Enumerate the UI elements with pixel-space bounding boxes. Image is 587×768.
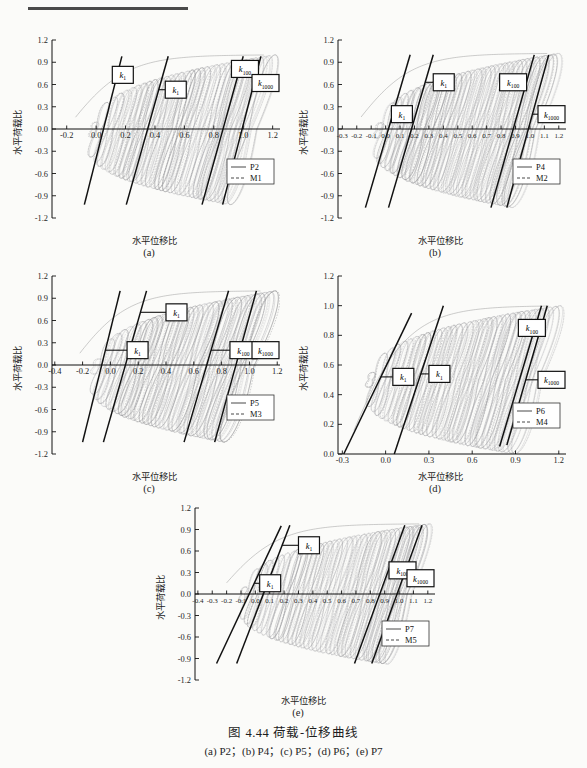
legend-label-P7: P7 bbox=[405, 625, 414, 634]
y-tick-label: 0.3 bbox=[181, 569, 191, 578]
chart-panel-a: -0.20.00.20.40.60.81.01.2-1.2-0.9-0.6-0.… bbox=[10, 30, 288, 258]
y-tick-label: -0.9 bbox=[321, 192, 334, 201]
x-tick-label: 0.8 bbox=[216, 367, 226, 376]
x-tick-label: 0.6 bbox=[467, 456, 477, 465]
x-tick-label: -0.4 bbox=[192, 597, 204, 605]
x-tick-label: 0.8 bbox=[209, 131, 219, 140]
legend-label-M5: M5 bbox=[405, 636, 417, 645]
y-tick-label: 0.9 bbox=[38, 294, 48, 303]
x-tick-label: -0.2 bbox=[60, 131, 73, 140]
x-tick-label: 1.2 bbox=[554, 456, 564, 465]
y-tick-label: 0.3 bbox=[38, 103, 48, 112]
y-tick-label: 0.6 bbox=[181, 547, 191, 556]
legend-label-P2: P2 bbox=[250, 163, 259, 172]
panel-subcaption: (b) bbox=[429, 247, 442, 258]
x-tick-label: -0.3 bbox=[207, 597, 219, 605]
y-tick-label: -0.3 bbox=[35, 147, 48, 156]
y-tick-label: 0.0 bbox=[38, 125, 48, 134]
x-tick-label: -0.1 bbox=[235, 597, 247, 605]
x-tick-label: 0.2 bbox=[280, 597, 289, 605]
y-tick-label: 1.2 bbox=[38, 272, 48, 281]
x-tick-label: 1.0 bbox=[244, 367, 254, 376]
panel-subcaption: (e) bbox=[292, 707, 304, 718]
x-axis-title: 水平位移比 bbox=[418, 235, 463, 246]
y-tick-label: 0.6 bbox=[324, 361, 334, 370]
x-tick-label: 0.0 bbox=[105, 367, 115, 376]
x-tick-label: 0.9 bbox=[511, 132, 520, 140]
x-tick-label: 1.0 bbox=[238, 131, 248, 140]
panel-subcaption: (d) bbox=[429, 483, 442, 494]
panel-subcaption: (c) bbox=[143, 483, 155, 494]
x-tick-label: 0.1 bbox=[265, 597, 274, 605]
y-tick-label: -0.3 bbox=[35, 383, 48, 392]
x-tick-label: -0.2 bbox=[221, 597, 233, 605]
x-tick-label: 0.3 bbox=[425, 132, 434, 140]
legend-c: P5M3 bbox=[227, 395, 274, 420]
x-tick-label: 1.2 bbox=[267, 131, 277, 140]
y-tick-label: -0.9 bbox=[35, 428, 48, 437]
x-tick-label: 0.0 bbox=[251, 597, 260, 605]
y-tick-label: -0.9 bbox=[178, 655, 191, 664]
x-tick-label: 0.6 bbox=[179, 131, 189, 140]
x-tick-label: 0.2 bbox=[133, 367, 143, 376]
y-tick-label: -0.9 bbox=[35, 192, 48, 201]
x-tick-label: 0.6 bbox=[337, 597, 346, 605]
y-tick-label: -0.6 bbox=[35, 170, 48, 179]
x-tick-label: 0.5 bbox=[323, 597, 332, 605]
y-axis-title: 水平荷载比 bbox=[298, 110, 309, 155]
y-tick-label: -1.2 bbox=[321, 214, 334, 223]
legend-label-M4: M4 bbox=[536, 418, 548, 427]
x-tick-label: 0.2 bbox=[410, 132, 419, 140]
x-tick-label: -0.1 bbox=[366, 132, 378, 140]
chart-svg-a: -0.20.00.20.40.60.81.01.2-1.2-0.9-0.6-0.… bbox=[10, 30, 288, 258]
y-tick-label: 1.2 bbox=[324, 36, 334, 45]
figure-caption-sub: (a) P2；(b) P4；(c) P5；(d) P6；(e) P7 bbox=[0, 742, 587, 758]
x-axis-title: 水平位移比 bbox=[418, 471, 463, 482]
chart-panel-d: -0.30.00.30.60.91.20.00.20.40.60.81.01.2… bbox=[296, 266, 574, 494]
y-tick-label: 0.3 bbox=[324, 103, 334, 112]
x-tick-label: 0.9 bbox=[380, 597, 389, 605]
k-label-boxes-b: k1k1k100k1000 bbox=[391, 74, 565, 123]
y-tick-label: -0.6 bbox=[321, 170, 334, 179]
x-tick-label: 0.8 bbox=[366, 597, 375, 605]
legend-d: P6M4 bbox=[513, 403, 560, 428]
y-tick-label: 0.9 bbox=[324, 58, 334, 67]
x-tick-label: 1.2 bbox=[272, 367, 282, 376]
x-tick-label: 1.1 bbox=[540, 132, 549, 140]
legend-a: P2M1 bbox=[227, 159, 274, 184]
x-tick-label: 0.0 bbox=[380, 456, 390, 465]
figure-caption-main: 图 4.44 荷载-位移曲线 bbox=[0, 722, 587, 741]
x-axis-title: 水平位移比 bbox=[281, 695, 326, 706]
y-tick-label: 0.9 bbox=[38, 58, 48, 67]
x-tick-label: 0.3 bbox=[294, 597, 303, 605]
x-tick-label: -0.3 bbox=[337, 132, 349, 140]
x-tick-label: 0.3 bbox=[424, 456, 434, 465]
y-tick-label: -0.3 bbox=[178, 612, 191, 621]
x-tick-label: 1.0 bbox=[526, 132, 535, 140]
y-tick-label: 0.6 bbox=[324, 81, 334, 90]
y-tick-label: -0.6 bbox=[178, 633, 191, 642]
y-tick-label: 0.4 bbox=[324, 391, 335, 400]
y-axis-title: 水平荷载比 bbox=[12, 346, 23, 391]
x-tick-label: 0.4 bbox=[161, 367, 172, 376]
legend-e: P7M5 bbox=[382, 621, 429, 646]
y-tick-label: 0.9 bbox=[181, 526, 191, 535]
chart-svg-e: -0.4-0.3-0.2-0.10.00.10.20.30.40.50.60.7… bbox=[153, 500, 443, 718]
y-tick-label: 1.0 bbox=[324, 302, 334, 311]
y-tick-label: -0.3 bbox=[321, 147, 334, 156]
y-tick-label: 1.2 bbox=[38, 36, 48, 45]
stiffness-secant-line bbox=[217, 526, 282, 664]
y-tick-label: -1.2 bbox=[178, 676, 191, 685]
chart-panel-c: -0.4-0.20.00.20.40.60.81.01.2-1.2-0.9-0.… bbox=[10, 266, 288, 494]
y-tick-label: -0.6 bbox=[35, 406, 48, 415]
y-tick-label: 0.6 bbox=[38, 317, 48, 326]
panel-subcaption: (a) bbox=[143, 247, 155, 258]
chart-panel-e: -0.4-0.3-0.2-0.10.00.10.20.30.40.50.60.7… bbox=[153, 500, 443, 718]
y-tick-label: -1.2 bbox=[35, 214, 48, 223]
y-tick-label: -1.2 bbox=[35, 450, 48, 459]
x-tick-label: -0.2 bbox=[351, 132, 363, 140]
y-tick-label: 1.2 bbox=[324, 272, 334, 281]
page-header-rule bbox=[28, 7, 188, 10]
x-tick-label: 0.6 bbox=[468, 132, 477, 140]
y-tick-label: 0.0 bbox=[181, 590, 191, 599]
